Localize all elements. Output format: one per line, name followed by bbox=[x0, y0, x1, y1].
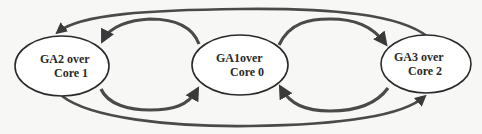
edge-ga1-to-ga3-top-inner bbox=[279, 19, 385, 45]
node-ga2-line1: GA2 over bbox=[40, 52, 90, 66]
edge-ga3-to-ga1-bottom-inner bbox=[281, 88, 388, 111]
edge-ga2-to-ga3-bottom-outer bbox=[62, 96, 424, 126]
node-ga2-line2: Core 1 bbox=[40, 66, 90, 80]
node-ga1-line1: GA1over bbox=[216, 51, 264, 65]
node-ga1-line2: Core 0 bbox=[216, 65, 264, 79]
edge-ga2-to-ga1-bottom-inner bbox=[101, 89, 197, 110]
diagram-canvas: GA2 over Core 1 GA1over Core 0 GA3 over … bbox=[0, 0, 482, 134]
edge-ga3-to-ga2-top-outer bbox=[58, 9, 428, 37]
edge-ga1-to-ga2-top-inner bbox=[103, 19, 199, 44]
node-ga3-line2: Core 2 bbox=[394, 64, 444, 78]
node-label-ga1: GA1over Core 0 bbox=[216, 51, 264, 79]
node-label-ga2: GA2 over Core 1 bbox=[40, 52, 90, 80]
node-ga3-line1: GA3 over bbox=[394, 50, 444, 64]
node-label-ga3: GA3 over Core 2 bbox=[394, 50, 444, 78]
